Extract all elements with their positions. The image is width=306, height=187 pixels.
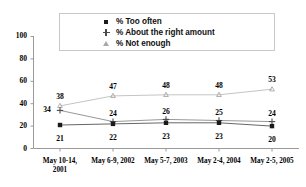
data-label-too-often-2: 23	[154, 133, 178, 141]
y-tick-label-60: 60	[1, 77, 27, 85]
line-chart: 100 80 60 40 20 0 May 10-14, 2001 May 6-…	[0, 0, 306, 187]
legend-label-not-enough: % Not enough	[116, 39, 170, 48]
data-label-not-enough-2: 48	[154, 82, 178, 90]
data-label-about-right-0: 34	[35, 106, 59, 114]
data-label-too-often-0: 21	[48, 135, 72, 143]
y-tick-label-40: 40	[1, 100, 27, 108]
data-label-about-right-4: 24	[260, 110, 284, 118]
data-label-not-enough-1: 47	[101, 83, 125, 91]
data-label-too-often-4: 20	[260, 136, 284, 144]
chart-legend: % Too often % About the right amount % N…	[59, 13, 275, 51]
legend-item-about-right[interactable]: % About the right amount	[101, 27, 215, 38]
y-tick-label-100: 100	[1, 32, 27, 40]
filled-square-marker-icon	[101, 16, 112, 27]
legend-item-too-often[interactable]: % Too often	[101, 16, 162, 27]
legend-item-not-enough[interactable]: % Not enough	[101, 38, 170, 49]
y-tick-label-80: 80	[1, 55, 27, 63]
data-label-not-enough-3: 48	[207, 82, 231, 90]
plus-marker-icon	[101, 27, 112, 38]
legend-label-too-often: % Too often	[116, 17, 162, 26]
x-tick-label-4: May 2-5, 2005	[238, 157, 306, 166]
data-label-too-often-3: 23	[207, 133, 231, 141]
y-tick-label-0: 0	[1, 145, 27, 153]
data-label-too-often-1: 22	[101, 134, 125, 142]
y-tick-label-20: 20	[1, 122, 27, 130]
legend-label-about-right: % About the right amount	[116, 28, 215, 37]
triangle-marker-icon	[101, 38, 112, 49]
data-label-not-enough-0: 38	[48, 93, 72, 101]
data-label-about-right-1: 24	[101, 110, 125, 118]
data-label-about-right-3: 25	[207, 109, 231, 117]
data-label-not-enough-4: 53	[260, 76, 284, 84]
data-label-about-right-2: 26	[154, 108, 178, 116]
